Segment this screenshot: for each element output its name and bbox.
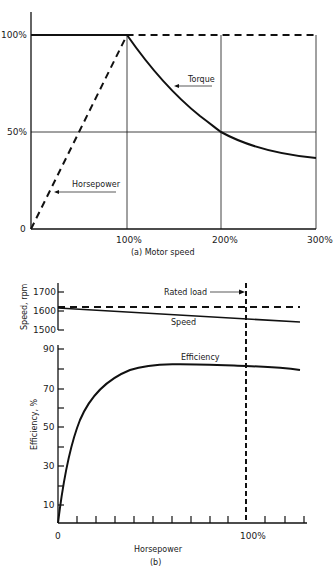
chart-b: 1700 1600 1500 Speed, rpm Speed Rated lo… [20,283,307,567]
chart-a-xtick-300: 300% [307,235,333,245]
rated-load-arrowhead [239,290,245,295]
speed-ytick-1700: 1700 [33,287,56,297]
eff-ytick-10: 10 [43,500,55,510]
figure: Torque Horsepower 100% 50% 0 100% 200% 3… [0,0,333,577]
chart-a-ytick-50: 50% [7,127,27,137]
eff-ytick-50: 50 [43,422,55,432]
chart-a-xtick-100: 100% [116,235,142,245]
speed-ytick-1600: 1600 [33,306,56,316]
chart-a-ytick-100: 100% [1,30,27,40]
torque-arrowhead [174,84,179,88]
chart-a: Torque Horsepower 100% 50% 0 100% 200% 3… [1,12,333,257]
hp-xtick-0: 0 [55,531,61,541]
speed-ytick-1500: 1500 [33,325,56,335]
rated-load-label: Rated load [164,288,207,297]
speed-axis-label: Speed, rpm [20,283,29,330]
eff-ytick-30: 30 [43,461,55,471]
efficiency-curve [58,364,300,523]
torque-curve [31,35,316,158]
hp-xtick-100: 100% [240,531,266,541]
horsepower-label: Horsepower [72,180,121,189]
efficiency-label: Efficiency [181,353,220,362]
eff-ytick-90: 90 [43,344,55,354]
chart-b-caption: (b) [150,558,161,567]
chart-a-ytick-0: 0 [20,224,26,234]
hp-xlabel: Horsepower [134,545,183,554]
horsepower-arrowhead [54,190,59,194]
chart-a-caption: (a) Motor speed [131,248,195,257]
efficiency-axis-label: Efficiency, % [30,398,39,450]
chart-a-xtick-200: 200% [212,235,238,245]
eff-ytick-70: 70 [43,384,55,394]
speed-label: Speed [171,318,196,327]
torque-label: Torque [187,75,215,84]
horsepower-x-ticks [77,516,304,523]
